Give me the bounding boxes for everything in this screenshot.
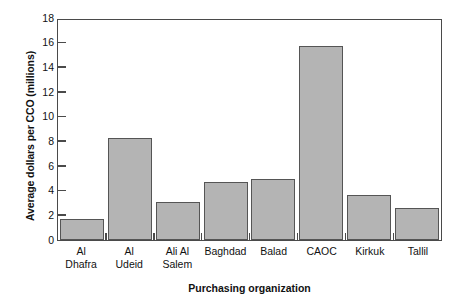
y-tick-label: 12	[42, 86, 54, 98]
y-axis-title: Average dollars per CCO (millions)	[24, 21, 36, 251]
bar-group	[393, 20, 441, 240]
x-axis-tick-labels: AlDhafraAlUdeidAli AlSalemBaghdadBaladCA…	[57, 245, 442, 270]
x-tick-label-line: Kirkuk	[346, 245, 394, 258]
bar-group	[297, 20, 345, 240]
x-tick-label-line: Balad	[250, 245, 298, 258]
bar-group	[58, 20, 106, 240]
y-tick-label: 2	[48, 209, 54, 221]
bar-ali-al-salem	[156, 202, 200, 240]
x-tick-label-al-dhafra: AlDhafra	[57, 245, 105, 270]
bar-al-udeid	[108, 138, 152, 240]
bar-group	[154, 20, 202, 240]
bar-group	[202, 20, 250, 240]
x-tick-label-line: Al	[57, 245, 105, 258]
bar-caoc	[299, 46, 343, 240]
x-axis-title: Purchasing organization	[57, 282, 442, 294]
x-tick-label-line: Ali Al	[153, 245, 201, 258]
y-tick-label: 6	[48, 160, 54, 172]
plot-area: 024681012141618	[57, 19, 442, 241]
y-tick-label: 0	[48, 234, 54, 246]
y-tick-label: 14	[42, 61, 54, 73]
bar-group	[250, 20, 298, 240]
y-tick-18: 18	[58, 17, 66, 18]
bar-group	[345, 20, 393, 240]
bar-kirkuk	[347, 195, 391, 240]
y-tick-label: 16	[42, 36, 54, 48]
bar-chart-figure: Average dollars per CCO (millions) 02468…	[0, 0, 462, 303]
x-tick-label-line: Udeid	[105, 258, 153, 271]
x-tick-label-balad: Balad	[250, 245, 298, 270]
x-tick-label-al-udeid: AlUdeid	[105, 245, 153, 270]
x-tick-label-line: Tallil	[394, 245, 442, 258]
x-tick-label-line: CAOC	[298, 245, 346, 258]
x-tick-label-line: Baghdad	[201, 245, 249, 258]
x-tick-label-line: Al	[105, 245, 153, 258]
x-tick-label-ali-al-salem: Ali AlSalem	[153, 245, 201, 270]
x-tick-label-kirkuk: Kirkuk	[346, 245, 394, 270]
bar-series	[58, 20, 441, 240]
x-tick-label-line: Salem	[153, 258, 201, 271]
y-tick-label: 8	[48, 135, 54, 147]
y-tick-label: 4	[48, 184, 54, 196]
bar-group	[106, 20, 154, 240]
bar-tallil	[395, 208, 439, 240]
x-tick-label-line: Dhafra	[57, 258, 105, 271]
x-tick-label-tallil: Tallil	[394, 245, 442, 270]
x-tick-label-baghdad: Baghdad	[201, 245, 249, 270]
bar-al-dhafra	[60, 219, 104, 240]
y-tick-label: 18	[42, 12, 54, 24]
y-tick-label: 10	[42, 110, 54, 122]
bar-baghdad	[204, 182, 248, 240]
bar-balad	[251, 179, 295, 240]
x-tick-label-caoc: CAOC	[298, 245, 346, 270]
